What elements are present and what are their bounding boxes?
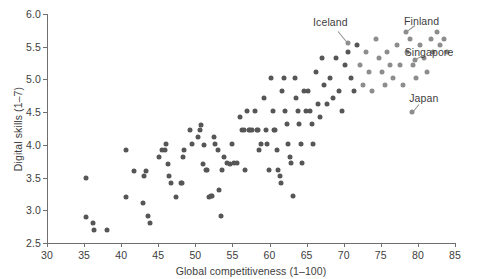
data-point (200, 161, 205, 166)
data-point (292, 76, 297, 81)
data-point (281, 76, 286, 81)
plot-area: 3035404550556065707580852.53.03.54.04.55… (0, 0, 502, 279)
x-tick-label: 45 (152, 249, 164, 261)
data-point (270, 108, 275, 113)
data-point (266, 167, 271, 172)
data-point (308, 108, 313, 113)
data-point (284, 121, 289, 126)
data-point (366, 69, 371, 74)
data-point (376, 56, 381, 61)
y-tick (43, 47, 47, 48)
data-point (230, 141, 235, 146)
annotation-label-singapore: Singapore (405, 46, 454, 58)
data-point (157, 155, 162, 160)
data-point (382, 82, 387, 87)
data-point (90, 221, 95, 226)
data-point (277, 174, 282, 179)
data-point (197, 128, 202, 133)
data-point (331, 95, 336, 100)
data-point (131, 169, 136, 174)
x-tick (344, 243, 345, 247)
annotated-data-point (346, 41, 351, 46)
data-point (346, 49, 351, 54)
y-tick-label: 3.5 (17, 172, 41, 184)
y-tick-label: 5.5 (17, 41, 41, 53)
data-point (263, 128, 268, 133)
data-point (294, 95, 299, 100)
data-point (257, 148, 262, 153)
data-point (145, 214, 150, 219)
data-point (441, 36, 446, 41)
data-point (334, 56, 339, 61)
data-point (317, 115, 322, 120)
data-point (297, 121, 302, 126)
x-axis-line (47, 243, 455, 244)
data-point (298, 141, 303, 146)
data-point (290, 193, 295, 198)
data-point (287, 154, 292, 159)
data-point (411, 63, 416, 68)
x-tick (270, 243, 271, 247)
data-point (218, 214, 223, 219)
data-point (256, 128, 261, 133)
x-tick (195, 243, 196, 247)
data-point (237, 115, 242, 120)
data-point (211, 135, 216, 140)
x-tick (158, 243, 159, 247)
data-point (105, 227, 110, 232)
y-tick (43, 178, 47, 179)
data-point (215, 148, 220, 153)
x-tick-label: 85 (449, 249, 461, 261)
data-point (408, 36, 413, 41)
data-point (343, 63, 348, 68)
x-axis-title: Global competitiveness (1–100) (176, 265, 327, 277)
data-point (83, 175, 88, 180)
annotation-leader-line (337, 31, 346, 42)
y-tick-label: 3.0 (17, 204, 41, 216)
data-point (391, 76, 396, 81)
y-tick (43, 243, 47, 244)
data-point (269, 76, 274, 81)
data-point (385, 49, 390, 54)
data-point (252, 108, 257, 113)
data-point (352, 89, 357, 94)
data-point (388, 63, 393, 68)
x-tick-label: 70 (338, 249, 350, 261)
data-point (295, 108, 300, 113)
data-point (164, 142, 169, 147)
data-point (199, 122, 204, 127)
data-point (148, 220, 153, 225)
x-tick (307, 243, 308, 247)
x-tick (121, 243, 122, 247)
annotation-leader-line (413, 104, 419, 111)
data-point (349, 76, 354, 81)
data-point (322, 82, 327, 87)
x-tick-label: 50 (189, 249, 201, 261)
data-point (180, 181, 185, 186)
data-point (315, 102, 320, 107)
data-point (195, 135, 200, 140)
data-point (379, 69, 384, 74)
data-point (358, 63, 363, 68)
data-point (273, 128, 278, 133)
data-point (274, 148, 279, 153)
data-point (300, 161, 305, 166)
data-point (306, 89, 311, 94)
data-point (424, 69, 429, 74)
data-point (180, 155, 185, 160)
data-point (361, 82, 366, 87)
annotation-label-finland: Finland (404, 15, 439, 27)
data-point (373, 36, 378, 41)
data-point (435, 30, 440, 35)
data-point (363, 49, 368, 54)
x-tick-label: 75 (375, 249, 387, 261)
data-point (278, 180, 283, 185)
data-point (395, 43, 400, 48)
data-point (222, 154, 227, 159)
data-point (309, 121, 314, 126)
data-point (340, 108, 345, 113)
data-point (337, 89, 342, 94)
y-axis-title: Digital skills (1–7) (12, 86, 24, 170)
data-point (123, 148, 128, 153)
data-point (311, 141, 316, 146)
